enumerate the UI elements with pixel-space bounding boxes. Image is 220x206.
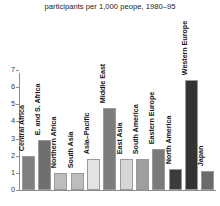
y-axis-tick-mark <box>16 70 19 71</box>
y-axis-tick-label: 1 <box>11 169 15 177</box>
plot-area: 01234567 Central AfricaE. and S. AfricaN… <box>19 70 216 191</box>
bar-group: Northern Africa <box>54 70 67 190</box>
y-axis-tick-label: 7 <box>11 66 15 74</box>
bars-layer: Central AfricaE. and S. AfricaNorthern A… <box>20 70 216 191</box>
bar-category-label: Eastern Europe <box>148 91 155 143</box>
bar-category-label: South America <box>132 104 139 154</box>
y-axis-tick-label: 0 <box>11 186 15 194</box>
y-axis-tick-label: 6 <box>11 83 15 91</box>
y-axis-tick-label: 2 <box>11 152 15 160</box>
bar-category-label: South Asia <box>66 131 73 168</box>
bar <box>87 159 100 190</box>
bar <box>120 159 133 190</box>
bar-category-label: Japan <box>197 146 204 167</box>
bar-category-label: East Asia <box>115 123 122 155</box>
y-axis-tick-mark <box>16 87 19 88</box>
bar-chart-figure: participants per 1,000 peope, 1980–95 01… <box>0 0 220 206</box>
bar <box>54 173 67 190</box>
bar-group: Japan <box>201 70 214 190</box>
y-axis-tick-mark <box>16 173 19 174</box>
bar <box>136 159 149 190</box>
bar-group: Western Europe <box>185 70 198 190</box>
bar-category-label: North America <box>164 116 171 165</box>
y-axis-tick-label: 5 <box>11 100 15 108</box>
bar <box>169 169 182 190</box>
y-axis-tick-mark <box>16 190 19 191</box>
bar-category-label: E. and S. Africa <box>34 84 41 136</box>
y-axis-tick-label: 4 <box>11 117 15 125</box>
chart-title: participants per 1,000 peope, 1980–95 <box>0 2 220 12</box>
bar-category-label: Central Africa <box>17 105 24 151</box>
bar <box>201 171 214 190</box>
y-axis-tick-label: 3 <box>11 135 15 143</box>
bar-category-label: Western Europe <box>181 21 188 75</box>
bar-category-label: Middle East <box>99 63 106 102</box>
bar <box>185 80 198 190</box>
y-axis-tick-mark <box>16 156 19 157</box>
bar <box>71 173 84 190</box>
bar-category-label: Northern Africa <box>50 116 57 168</box>
bar <box>22 156 35 190</box>
bar-category-label: Asia–Pacific <box>83 112 90 154</box>
bar-group: North America <box>169 70 182 190</box>
